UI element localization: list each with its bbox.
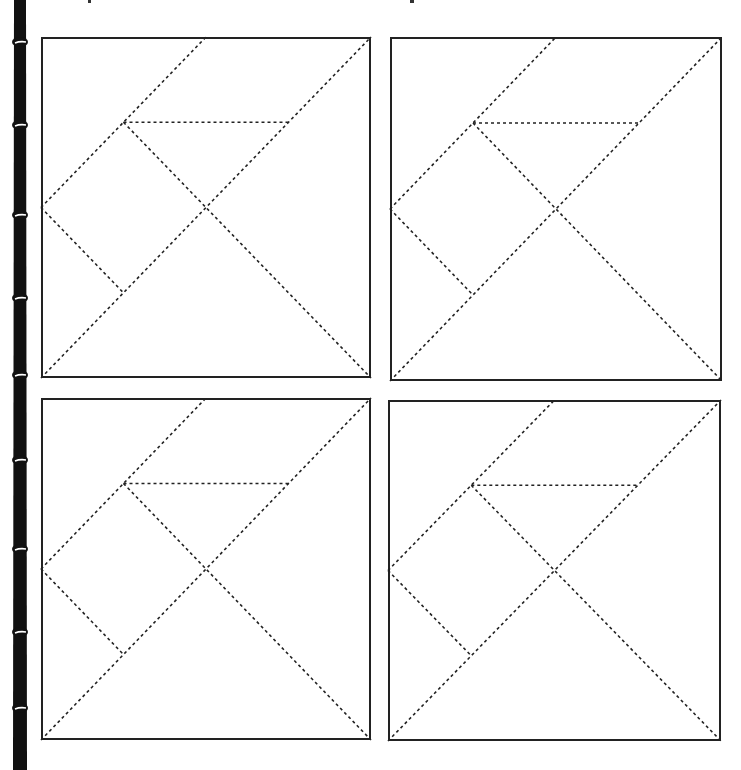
tangram-outline-icon: [388, 400, 721, 741]
tangram-square-4: Tangram square 4: [388, 400, 721, 741]
cut-line-upper-parallel: [388, 400, 555, 571]
tangram-square-2: Tangram square 2: [390, 37, 722, 381]
cut-line-cross-diagonal: [124, 122, 372, 378]
cut-line-main-diagonal: [390, 37, 722, 381]
tangram-square-3: Tangram square 3: [41, 398, 371, 740]
cut-line-square-edge: [390, 209, 473, 295]
cut-line-cross-diagonal: [473, 123, 722, 381]
cut-off-heading-remnant: [88, 0, 91, 3]
tangram-outline-icon: [41, 398, 371, 740]
cut-line-square-edge: [41, 569, 124, 655]
cut-line-cross-diagonal: [124, 484, 372, 741]
cut-line-square-edge: [41, 208, 124, 293]
cut-line-main-diagonal: [388, 400, 721, 741]
cut-line-square-edge: [388, 571, 471, 656]
worksheet-page: Tangram square 1Tangram square 2Tangram …: [0, 0, 741, 770]
tangram-outline-icon: [41, 37, 371, 378]
tangram-square-1: Tangram square 1: [41, 37, 371, 378]
cut-line-main-diagonal: [41, 398, 371, 740]
tangram-outline-icon: [390, 37, 722, 381]
cut-line-cross-diagonal: [471, 485, 721, 741]
bamboo-border-icon: [0, 0, 32, 770]
cut-off-heading-remnant: [410, 0, 414, 3]
